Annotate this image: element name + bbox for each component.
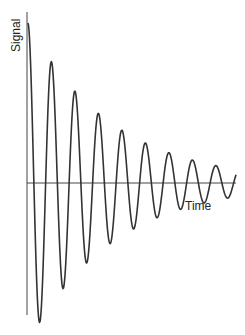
x-axis-label: Time [185,199,212,213]
damped-oscillation-chart: Signal Time [0,0,245,335]
signal-line [28,23,236,322]
y-axis-label: Signal [9,19,23,52]
